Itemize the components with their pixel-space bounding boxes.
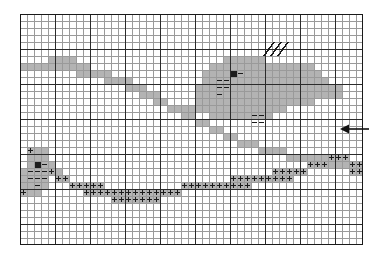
arrow-left-icon [340,121,370,133]
arrow-left-glyph [340,123,370,135]
grid-container [20,14,363,245]
grid-outer-border [20,14,363,245]
grid-canvas [20,14,363,245]
diagram-stage [0,0,378,261]
